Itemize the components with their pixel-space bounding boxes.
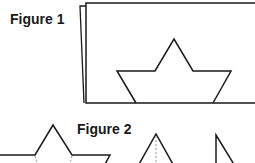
diagram-canvas: Figure 1 Figure 2 [0, 0, 255, 163]
right-triangle-shape [216, 135, 235, 163]
star-fold-line-left [35, 156, 38, 163]
figure-2-label: Figure 2 [77, 122, 131, 136]
front-sheet [86, 3, 255, 103]
figure-1 [80, 3, 255, 103]
figure-1-label: Figure 1 [10, 12, 64, 26]
star-fold-line-right [69, 156, 72, 163]
back-sheet [80, 6, 86, 103]
boat-shape [117, 39, 231, 103]
